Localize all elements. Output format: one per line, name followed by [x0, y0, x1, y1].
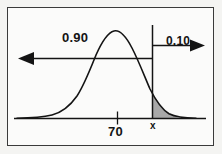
figure-root: 0.90 0.10 70 x: [0, 0, 222, 154]
right-probability-label: 0.10: [166, 34, 190, 48]
left-probability-arrowhead: [18, 52, 34, 65]
x-axis-label: x: [150, 120, 156, 131]
right-probability-arrowhead: [190, 40, 205, 52]
left-probability-label: 0.90: [62, 30, 88, 45]
shaded-tail-region: [153, 93, 180, 119]
mean-axis-label: 70: [108, 124, 123, 139]
